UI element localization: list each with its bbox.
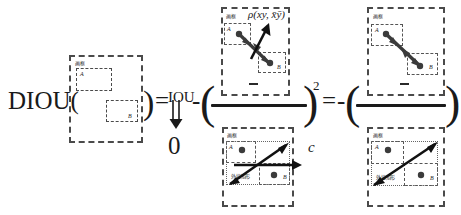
equation-figure: DIOU( 画框 A B ) = IOU - ( 0 画框 ρ(xy, x̄ȳ…	[0, 0, 461, 215]
fraction-bar-right	[356, 104, 446, 107]
panel-left-box-a-label: A	[80, 71, 84, 77]
right-numerator-minus-sign	[400, 83, 409, 85]
diagonal-c-label: c	[308, 140, 315, 155]
open-paren-2: (	[345, 80, 360, 126]
panel-left-frame-label: 画框	[75, 59, 85, 66]
open-paren-1: (	[200, 80, 215, 126]
limit-double-down-arrow-icon	[166, 100, 190, 136]
limit-value-zero: 0	[168, 133, 181, 158]
panel-right-bottom-vectors-icon	[367, 127, 445, 207]
equals-sign-2: =	[322, 88, 336, 113]
numerator-minus-sign	[249, 83, 258, 85]
exponent-two: 2	[313, 79, 320, 92]
panel-left-box-b-label: B	[128, 113, 132, 119]
lhs-close-paren: )	[143, 86, 154, 120]
close-paren-2: )	[445, 80, 460, 126]
panel-left-box-b	[106, 100, 138, 122]
fraction-bar-middle	[211, 104, 307, 107]
panel-mid-bottom-vectors-icon	[222, 127, 322, 207]
